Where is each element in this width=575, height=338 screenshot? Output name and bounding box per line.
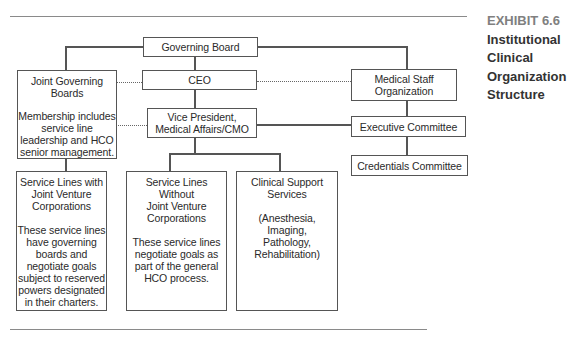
slwjv-body-5: subject to reserved <box>18 272 105 284</box>
node-governing-board: Governing Board <box>143 37 258 57</box>
node-executive-committee: Executive Committee <box>351 116 466 137</box>
connector-exec-to-cred <box>406 137 408 155</box>
msp-line-2: Organization <box>375 85 433 97</box>
msp-line-1: Medical Staff <box>374 73 433 85</box>
dotted-ceo-to-jgb <box>116 82 142 83</box>
slwojv-body-4: HCO process. <box>144 272 209 284</box>
node-service-lines-with-jv: Service Lines with Joint Venture Corpora… <box>16 171 107 311</box>
connector-vp-down <box>194 138 196 154</box>
slwjv-body-3: boards and <box>36 248 88 260</box>
connector-msp-to-exec <box>406 101 408 116</box>
css-body-2: Imaging, <box>267 224 306 236</box>
jgb-title-1: Joint Governing <box>31 75 103 87</box>
dotted-vp-to-jgb <box>116 125 147 126</box>
slwjv-title-1: Service Lines with <box>20 176 103 188</box>
slwojv-title-3: Joint Venture <box>147 200 207 212</box>
css-body-4: Rehabilitation) <box>254 248 320 260</box>
slwjv-title-2: Joint Venture <box>32 188 92 200</box>
exhibit-caption: EXHIBIT 6.6 Institutional Clinical Organ… <box>487 12 566 105</box>
cred-label: Credentials Committee <box>357 160 462 172</box>
connector-gb-to-jgb-vertical <box>65 46 67 70</box>
slwjv-body-6: powers designated <box>18 284 104 296</box>
ceo-label: CEO <box>188 74 210 86</box>
node-ceo: CEO <box>142 70 257 90</box>
node-clinical-support-services: Clinical Support Services (Anesthesia, I… <box>236 171 338 311</box>
css-body-1: (Anesthesia, <box>258 212 315 224</box>
slwjv-body-4: negotiate goals <box>27 260 97 272</box>
slwojv-body-2: negotiate goals as <box>135 248 218 260</box>
css-title-1: Clinical Support <box>251 176 323 188</box>
jgb-title-2: Boards <box>51 87 84 99</box>
vp-line-2: Medical Affairs/CMO <box>155 123 249 135</box>
vp-line-1: Vice President, <box>168 111 237 123</box>
exhibit-title-line-3: Organization <box>487 68 566 87</box>
slwjv-body-2: have governing <box>26 236 96 248</box>
jgb-body-3: leadership and HCO <box>20 134 113 146</box>
connector-ceo-to-vp <box>194 90 196 108</box>
jgb-body-2: service line <box>41 122 92 134</box>
exhibit-number: EXHIBIT 6.6 <box>487 12 566 31</box>
exhibit-title-line-4: Structure <box>487 86 566 105</box>
slwojv-title-1: Service Lines <box>146 176 208 188</box>
connector-gb-to-ceo <box>194 57 196 70</box>
css-body-3: Pathology, <box>263 236 311 248</box>
top-rule <box>10 16 467 17</box>
connector-branch-to-css <box>279 153 281 171</box>
slwojv-body-3: part of the general <box>135 260 218 272</box>
connector-branch-to-slwojv <box>169 153 171 171</box>
exhibit-title-line-1: Institutional <box>487 31 566 50</box>
node-vice-president: Vice President, Medical Affairs/CMO <box>147 108 257 138</box>
slwjv-body-7: in their charters. <box>25 296 98 308</box>
slwojv-body-1: These service lines <box>133 236 221 248</box>
slwjv-body-1: These service lines <box>18 224 106 236</box>
node-medical-staff-organization: Medical Staff Organization <box>351 69 457 101</box>
exec-label: Executive Committee <box>360 121 457 133</box>
connector-jgb-to-slwjv <box>65 158 67 171</box>
connector-gb-to-msp-horizontal <box>258 46 408 48</box>
connector-gb-to-msp-vertical <box>406 46 408 69</box>
slwojv-title-4: Corporations <box>147 212 206 224</box>
css-title-2: Services <box>267 188 306 200</box>
node-service-lines-without-jv: Service Lines Without Joint Venture Corp… <box>126 171 227 311</box>
connector-vp-to-exec <box>257 124 351 126</box>
connector-branch-horizontal <box>170 153 280 155</box>
governing-board-label: Governing Board <box>162 41 240 53</box>
node-credentials-committee: Credentials Committee <box>351 155 468 176</box>
dotted-ceo-to-msp <box>257 81 351 82</box>
node-joint-governing-boards: Joint Governing Boards Membership includ… <box>17 70 117 159</box>
slwjv-title-3: Corporations <box>32 200 91 212</box>
exhibit-title-line-2: Clinical <box>487 49 566 68</box>
jgb-body-1: Membership includes <box>18 110 115 122</box>
jgb-body-4: senior management. <box>20 146 114 158</box>
slwojv-title-2: Without <box>159 188 194 200</box>
bottom-rule <box>10 329 427 330</box>
connector-gb-to-jgb-horizontal <box>66 46 143 48</box>
